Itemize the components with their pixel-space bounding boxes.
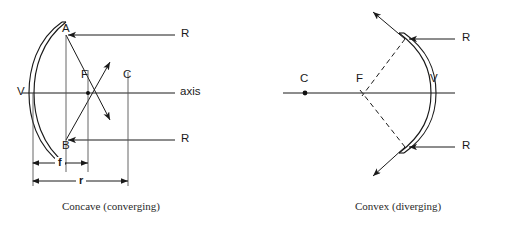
concave-label-focus: F <box>81 69 88 81</box>
diagram-canvas <box>0 0 517 226</box>
concave-label-vertex: V <box>17 86 25 98</box>
convex-label-vertex: V <box>430 73 438 85</box>
convex-virtual-extension-bottom <box>360 90 405 147</box>
convex-label-center: C <box>300 73 308 85</box>
concave-label-radius: r <box>76 175 86 186</box>
concave-label-a: A <box>62 23 70 35</box>
concave-label-ray-top: R <box>181 28 189 40</box>
convex-panel-graphics <box>283 12 455 176</box>
convex-virtual-extension-top <box>362 39 405 96</box>
concave-label-axis: axis <box>180 86 200 98</box>
mirror-diagram-figure: A B V F C axis R R f r C F V R R Concave… <box>0 0 517 226</box>
convex-center-point <box>303 91 308 96</box>
concave-label-ray-bottom: R <box>181 133 189 145</box>
convex-reflected-ray-top <box>373 12 405 39</box>
concave-panel-graphics <box>22 22 175 186</box>
convex-label-ray-top: R <box>462 32 470 44</box>
convex-label-focus: F <box>356 73 363 85</box>
concave-focus-point <box>86 91 90 95</box>
concave-label-focal-length: f <box>55 157 65 168</box>
concave-caption: Concave (converging) <box>62 201 160 212</box>
convex-caption: Convex (diverging) <box>355 201 441 212</box>
concave-label-b: B <box>62 140 70 152</box>
convex-label-ray-bottom: R <box>462 140 470 152</box>
convex-reflected-ray-bottom <box>373 147 405 176</box>
concave-label-center: C <box>123 69 131 81</box>
